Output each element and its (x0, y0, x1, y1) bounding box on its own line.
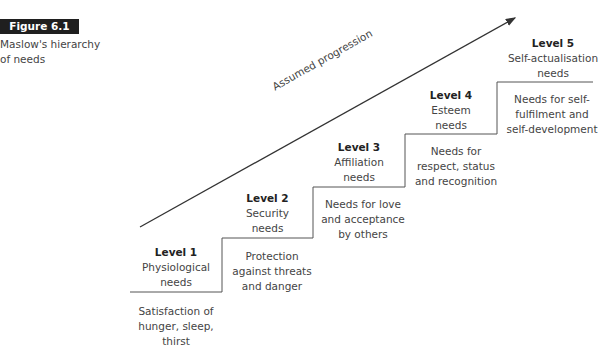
level-3-name-line-2: needs (313, 170, 405, 185)
level-2-title: Level 2 (222, 191, 313, 206)
level-2-name-line-1: Security (222, 206, 313, 221)
level-1-name-line-1: Physiological (130, 260, 222, 275)
level-3-description: Needs for love and acceptance by others (313, 197, 413, 242)
level-2-name-line-2: needs (222, 221, 313, 236)
level-5-heading: Level 5 Self-actualisation needs (497, 36, 609, 81)
level-4-desc-line: respect, status (405, 159, 507, 174)
level-4-title: Level 4 (405, 88, 497, 103)
level-4-desc-line: and recognition (405, 174, 507, 189)
level-1-desc-line: Satisfaction of (126, 304, 226, 319)
level-1-title: Level 1 (130, 245, 222, 260)
level-1-name-line-2: needs (130, 275, 222, 290)
level-2-desc-line: Protection (222, 249, 322, 264)
level-1-heading: Level 1 Physiological needs (130, 245, 222, 290)
level-1-desc-line: thirst (126, 334, 226, 349)
level-1-desc-line: hunger, sleep, (126, 319, 226, 334)
level-5-title: Level 5 (497, 36, 609, 51)
level-3-name-line-1: Affiliation (313, 155, 405, 170)
level-3-desc-line: and acceptance (313, 212, 413, 227)
level-5-name-line-1: Self-actualisation (497, 51, 609, 66)
level-5-name-line-2: needs (497, 66, 609, 81)
level-3-title: Level 3 (313, 140, 405, 155)
level-2-heading: Level 2 Security needs (222, 191, 313, 236)
level-5-desc-line: fulfilment and (497, 107, 607, 122)
level-5-description: Needs for self- fulfilment and self-deve… (497, 92, 607, 137)
level-5-desc-line: Needs for self- (497, 92, 607, 107)
level-4-desc-line: Needs for (405, 144, 507, 159)
level-3-heading: Level 3 Affiliation needs (313, 140, 405, 185)
level-2-description: Protection against threats and danger (222, 249, 322, 294)
level-4-name-line-1: Esteem (405, 103, 497, 118)
level-4-name-line-2: needs (405, 118, 497, 133)
level-2-desc-line: and danger (222, 279, 322, 294)
level-2-desc-line: against threats (222, 264, 322, 279)
level-4-description: Needs for respect, status and recognitio… (405, 144, 507, 189)
level-5-desc-line: self-development (497, 122, 607, 137)
level-3-desc-line: Needs for love (313, 197, 413, 212)
level-4-heading: Level 4 Esteem needs (405, 88, 497, 133)
level-3-desc-line: by others (313, 227, 413, 242)
level-1-description: Satisfaction of hunger, sleep, thirst (126, 304, 226, 349)
